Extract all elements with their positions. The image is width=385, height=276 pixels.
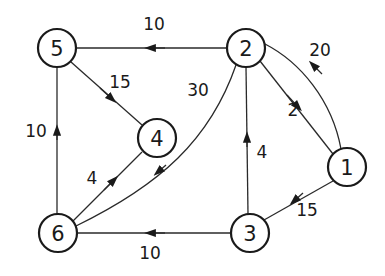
node-label-2: 2 [239, 37, 252, 61]
edge-5-to-4: 15 [71, 62, 142, 125]
edge-2-to-1: 2 [260, 61, 333, 154]
edge-weight-2-1: 2 [288, 100, 299, 120]
edge-1-to-2: 20 [265, 40, 341, 149]
edge-weight-2-5: 10 [143, 14, 165, 34]
node-6: 6 [39, 214, 77, 252]
node-4: 4 [138, 119, 176, 157]
edge-3-to-6: 10 [77, 233, 231, 263]
edge-weight-2-6: 30 [187, 80, 209, 100]
node-3: 3 [231, 214, 269, 252]
edge-weight-3-6: 10 [139, 243, 161, 263]
node-label-3: 3 [243, 222, 256, 246]
node-5: 5 [38, 29, 76, 67]
edge-1-to-3: 15 [264, 181, 333, 220]
edge-weight-1-3: 15 [296, 200, 318, 220]
node-label-6: 6 [51, 222, 64, 246]
edge-2-to-5: 10 [76, 14, 227, 48]
edge-weight-1-2: 20 [309, 40, 331, 60]
graph-diagram: 10 20 2 30 [0, 0, 385, 276]
edge-3-to-2: 4 [246, 67, 267, 214]
node-1: 1 [328, 148, 366, 186]
edge-weight-3-2: 4 [257, 142, 268, 162]
node-label-4: 4 [150, 127, 163, 151]
node-2: 2 [227, 29, 265, 67]
edge-weight-5-4: 15 [109, 72, 131, 92]
edge-6-to-4: 4 [73, 152, 142, 221]
edge-6-to-5: 10 [25, 67, 57, 214]
node-label-1: 1 [340, 156, 353, 180]
edge-weight-6-5: 10 [25, 121, 47, 141]
edge-weight-6-4: 4 [87, 168, 98, 188]
node-label-5: 5 [50, 37, 63, 61]
